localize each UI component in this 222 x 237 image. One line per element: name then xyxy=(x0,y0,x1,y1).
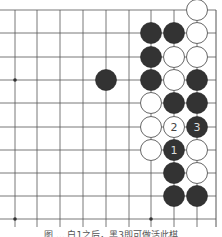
move-number-label: 2 xyxy=(171,121,178,134)
white-stone xyxy=(187,23,208,44)
star-point xyxy=(13,217,17,221)
white-stone xyxy=(187,0,208,21)
star-point xyxy=(149,217,153,221)
white-stone xyxy=(164,47,185,68)
star-point xyxy=(13,78,17,82)
black-stone xyxy=(187,70,208,91)
black-stone xyxy=(164,186,185,207)
black-stone xyxy=(164,163,185,184)
black-stone: 1 xyxy=(164,140,185,161)
black-stone: 3 xyxy=(187,117,208,138)
black-stone xyxy=(96,70,117,91)
white-stone xyxy=(187,163,208,184)
go-board: 231 xyxy=(0,0,222,237)
black-stone xyxy=(164,23,185,44)
white-stone xyxy=(164,70,185,91)
white-stone xyxy=(187,47,208,68)
white-stone xyxy=(141,93,162,114)
move-number-label: 1 xyxy=(171,144,178,157)
black-stone xyxy=(187,186,208,207)
black-stone xyxy=(141,47,162,68)
white-stone xyxy=(141,117,162,138)
white-stone xyxy=(187,140,208,161)
black-stone xyxy=(187,93,208,114)
black-stone xyxy=(141,70,162,91)
black-stone xyxy=(164,93,185,114)
move-number-label: 3 xyxy=(194,121,201,134)
diagram-caption: 图 ... 白1之后，黑3即可做活此棋 xyxy=(0,229,222,237)
white-stone: 2 xyxy=(164,117,185,138)
black-stone xyxy=(141,23,162,44)
white-stone xyxy=(141,140,162,161)
